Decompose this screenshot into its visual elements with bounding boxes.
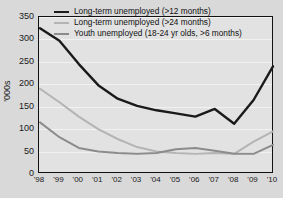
legend: Long-term unemployed (>12 months)Long-te… [52, 4, 245, 41]
legend-label: Long-term unemployed (>12 months) [74, 7, 211, 15]
x-tick-label: '99 [53, 176, 63, 184]
y-axis-tick-labels: 050100150200250300350 [0, 16, 34, 173]
x-tick-label: '04 [150, 176, 160, 184]
legend-item: Youth unemployed (18-24 yr olds, >6 mont… [54, 28, 242, 39]
x-tick-label: '06 [189, 176, 199, 184]
series-line [40, 89, 273, 154]
x-tick-label: '05 [170, 176, 180, 184]
x-tick-label: '98 [34, 176, 44, 184]
x-tick-label: '03 [131, 176, 141, 184]
series-line [40, 28, 273, 124]
series-line [40, 122, 273, 153]
y-tick-label: 250 [19, 56, 34, 65]
y-tick-label: 100 [19, 124, 34, 133]
legend-item: Long-term unemployed (>24 months) [54, 17, 242, 28]
x-tick-label: '01 [92, 176, 102, 184]
x-tick-label: '10 [267, 176, 277, 184]
x-tick-label: '00 [73, 176, 83, 184]
legend-line-swatch [54, 22, 69, 24]
x-tick-label: '02 [111, 176, 121, 184]
x-tick-label: '07 [209, 176, 219, 184]
y-tick-label: 200 [19, 79, 34, 88]
x-axis-tick-labels: '98'99'00'01'02'03'04'05'06'07'08'09'10 [38, 176, 273, 190]
x-tick-label: '08 [228, 176, 238, 184]
legend-item: Long-term unemployed (>12 months) [54, 6, 242, 17]
x-tick-label: '09 [247, 176, 257, 184]
legend-line-swatch [54, 33, 69, 35]
y-tick-label: 50 [24, 146, 34, 155]
chart-figure: '000s 050100150200250300350 '98'99'00'01… [0, 0, 283, 198]
legend-label: Youth unemployed (18-24 yr olds, >6 mont… [74, 29, 242, 37]
y-tick-label: 150 [19, 101, 34, 110]
y-tick-label: 350 [19, 12, 34, 21]
legend-label: Long-term unemployed (>24 months) [74, 18, 211, 26]
legend-line-swatch [54, 11, 69, 13]
y-tick-label: 300 [19, 34, 34, 43]
